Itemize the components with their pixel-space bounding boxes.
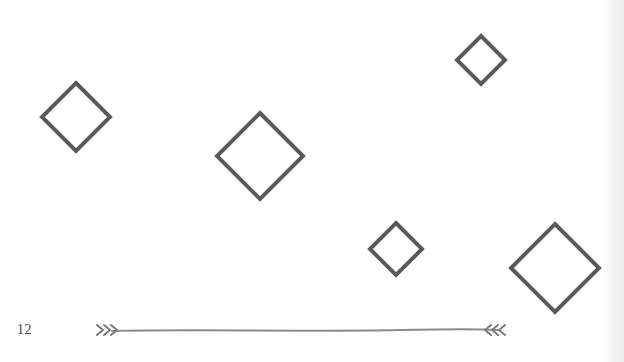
diamond-outline-icon (217, 113, 303, 199)
illustration (0, 0, 624, 362)
divider-line (112, 329, 498, 331)
diamond-outline-icon (42, 83, 110, 151)
arrow-divider (97, 325, 505, 335)
page-number: 12 (17, 322, 32, 338)
diamond-group (42, 36, 599, 312)
diamond-outline-icon (511, 224, 599, 312)
diamond-outline-icon (457, 36, 505, 84)
diamond-outline-icon (370, 223, 422, 275)
